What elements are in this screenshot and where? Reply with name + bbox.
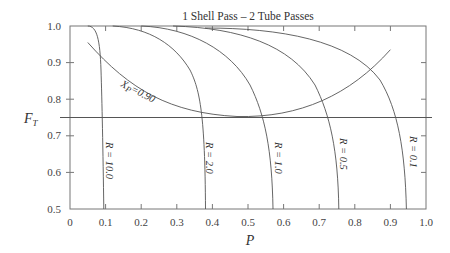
label-r-10: R = 10.0: [104, 141, 115, 180]
label-r-05: R = 0.5: [338, 137, 349, 170]
x-tick-label: 0.4: [206, 216, 220, 228]
x-tick-label: 0.2: [134, 216, 148, 228]
x-tick-label: 0.3: [170, 216, 184, 228]
x-tick-labels: 0 0.1 0.2 0.3 0.4 0.5 0.6 0.7 0.8 0.9 1.…: [67, 216, 433, 228]
x-tick-label: 0.6: [277, 216, 291, 228]
y-tick-label: 0.9: [47, 56, 61, 68]
y-tick-label: 0.5: [47, 203, 61, 215]
chart: 0 0.1 0.2 0.3 0.4 0.5 0.6 0.7 0.8 0.9 1.…: [0, 0, 450, 253]
label-xp-090: XP=0.90: [117, 78, 158, 107]
chart-title: 1 Shell Pass – 2 Tube Passes: [182, 10, 314, 22]
curve-xp-090: [88, 43, 391, 117]
x-tick-label: 1.0: [419, 216, 433, 228]
label-r-2: R = 2.0: [204, 141, 215, 175]
label-r-01: R = 0.1: [408, 135, 419, 168]
y-axis-title: FT: [23, 111, 39, 128]
x-tick-label: 0.8: [348, 216, 362, 228]
x-tick-label: 0.9: [384, 216, 398, 228]
y-tick-label: 1.0: [47, 20, 61, 32]
y-axis-title-main: F: [23, 111, 33, 126]
y-tick-labels: 0.5 0.6 0.7 0.8 0.9 1.0: [47, 20, 61, 215]
label-r-1: R = 1.0: [273, 141, 284, 175]
y-tick-label: 0.7: [47, 129, 61, 141]
y-tick-label: 0.6: [47, 166, 61, 178]
x-axis-title: P: [245, 233, 255, 248]
x-tick-label: 0.7: [312, 216, 326, 228]
x-tick-label: 0.5: [241, 216, 255, 228]
x-tick-label: 0: [67, 216, 73, 228]
x-tick-label: 0.1: [99, 216, 113, 228]
curve-r-01: [205, 28, 406, 209]
y-tick-label: 0.8: [47, 93, 61, 105]
y-axis-title-sub: T: [33, 118, 39, 128]
